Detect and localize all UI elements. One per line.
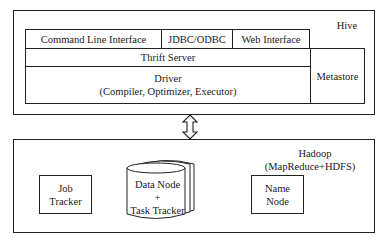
hive-label: Hive: [330, 19, 364, 32]
thrift-server-box: Thrift Server: [25, 48, 311, 67]
job-tracker-box: Job Tracker: [39, 175, 92, 214]
command-line-interface-box: Command Line Interface: [25, 29, 162, 49]
job-tracker-line1: Job: [58, 182, 73, 195]
web-interface-box: Web Interface: [232, 29, 310, 49]
name-node-box: Name Node: [251, 175, 304, 214]
data-node-label: Data Node + Task Tracker: [127, 178, 188, 217]
data-node-line3: Task Tracker: [130, 204, 184, 217]
metastore-box: Metastore: [310, 48, 365, 104]
driver-title: Driver: [154, 72, 181, 85]
data-node-line1: Data Node: [135, 178, 180, 191]
hadoop-subtitle: (MapReduce+HDFS): [255, 160, 365, 173]
jdbc-odbc-box: JDBC/ODBC: [161, 29, 233, 49]
data-node-line2: +: [155, 191, 161, 204]
bidirectional-arrow-icon: [180, 114, 200, 140]
name-node-line1: Name: [265, 182, 290, 195]
name-node-line2: Node: [266, 195, 289, 208]
driver-box: Driver (Compiler, Optimizer, Executor): [25, 66, 311, 104]
driver-subtitle: (Compiler, Optimizer, Executor): [100, 85, 237, 98]
hadoop-title: Hadoop: [275, 147, 355, 160]
job-tracker-line2: Tracker: [49, 195, 81, 208]
